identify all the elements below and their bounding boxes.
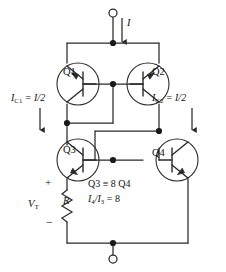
label-supply-current: I <box>127 18 131 29</box>
label-polarity-plus: + <box>45 177 51 188</box>
ratio-equals: = 8 <box>107 193 120 204</box>
transistor-label-Q3: Q3 <box>63 145 76 156</box>
schematic-canvas <box>0 0 226 272</box>
node-q3q4-base <box>110 157 116 163</box>
circuit-diagram: I IC1 = I/2 IC2 = I/2 VT R + − Q3 ≡ 8 Q4… <box>0 0 226 272</box>
node-q2-collector <box>156 128 162 134</box>
vt-subscript: T <box>34 203 38 211</box>
node-bottom-rail <box>110 240 116 246</box>
ic1-subscript: C1 <box>14 97 22 104</box>
label-polarity-minus: − <box>46 216 53 228</box>
label-collector-current-1: IC1 = I/2 <box>11 93 45 105</box>
terminal-bottom-open-circle <box>109 255 117 263</box>
note-current-ratio: I4/I3 = 8 <box>88 194 120 206</box>
transistor-label-Q2: Q2 <box>152 67 165 78</box>
transistor-label-Q1: Q1 <box>63 67 76 78</box>
node-top-supply <box>110 40 116 46</box>
ic2-subscript: C2 <box>155 97 163 104</box>
i3-subscript: 3 <box>101 198 104 205</box>
label-vt: VT <box>28 199 39 211</box>
label-collector-current-2: IC2 = I/2 <box>152 93 186 105</box>
ic2-value: = I/2 <box>166 92 186 103</box>
junction-dots <box>64 40 162 246</box>
transistor-Q4-symbol <box>156 139 198 181</box>
node-base-bus <box>110 81 116 87</box>
node-q1-collector <box>64 120 70 126</box>
transistor-label-Q4: Q4 <box>152 148 165 159</box>
label-resistor: R <box>63 196 69 207</box>
ic1-value: = I/2 <box>25 92 45 103</box>
wires <box>62 17 188 255</box>
note-device-ratio: Q3 ≡ 8 Q4 <box>88 179 131 189</box>
terminal-top-open-circle <box>109 9 117 17</box>
